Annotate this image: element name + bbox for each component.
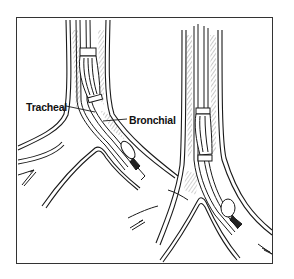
bronchial-cuff-right [221,199,242,228]
tracheal-leader-line [66,106,95,112]
bronchial-label: Bronchial [129,115,176,126]
right-lower-arrow [128,206,272,254]
illustration-figure: Tracheal Bronchial [0,0,294,279]
tracheal-label: Tracheal [26,102,67,113]
airway-illustration [0,0,294,279]
left-lower-bronchi [18,170,188,200]
